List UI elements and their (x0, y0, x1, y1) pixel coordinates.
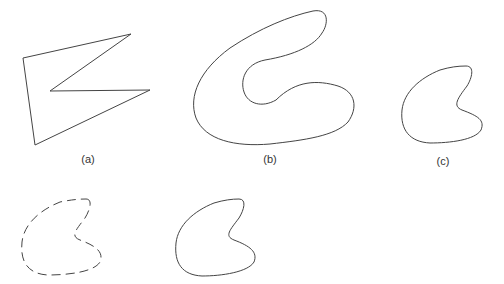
figure-canvas (0, 0, 504, 284)
shape-dashed-curve (22, 199, 101, 275)
label-b: (b) (263, 153, 276, 165)
shape-c-curve (402, 66, 482, 143)
label-a: (a) (81, 153, 94, 165)
shape-a-polygon (23, 34, 150, 145)
shape-solid-curve (176, 199, 255, 276)
shape-b-curve (194, 11, 354, 145)
label-c: (c) (437, 155, 450, 167)
